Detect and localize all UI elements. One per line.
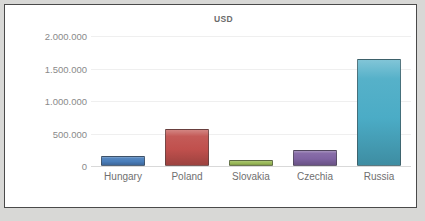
bar-hungary[interactable] — [101, 156, 145, 166]
chart-frame: USD 2.000.000 1.500.000 1.000.000 500.00… — [4, 4, 417, 208]
x-axis: Hungary Poland Slovakia Czechia Russia — [91, 171, 411, 182]
x-axis-tick-label: Slovakia — [219, 171, 283, 182]
chart-title: USD — [5, 14, 416, 24]
x-axis-tick-label: Hungary — [91, 171, 155, 182]
y-axis-tick-label: 2.000.000 — [11, 31, 87, 42]
bar-slot — [155, 36, 219, 166]
x-axis-tick-label: Russia — [347, 171, 411, 182]
bar-slovakia[interactable] — [229, 160, 273, 166]
axis-baseline — [91, 166, 411, 167]
bar-series — [91, 36, 411, 166]
bar-russia[interactable] — [357, 59, 401, 166]
y-axis-tick-label: 1.500.000 — [11, 63, 87, 74]
bar-poland[interactable] — [165, 129, 209, 166]
y-axis-tick-label: 500.000 — [11, 128, 87, 139]
bar-slot — [91, 36, 155, 166]
y-axis: 2.000.000 1.500.000 1.000.000 500.000 0 — [9, 36, 87, 166]
y-axis-tick-label: 1.000.000 — [11, 96, 87, 107]
bar-slot — [347, 36, 411, 166]
x-axis-tick-label: Czechia — [283, 171, 347, 182]
y-axis-tick-label: 0 — [11, 161, 87, 172]
bar-slot — [219, 36, 283, 166]
bar-czechia[interactable] — [293, 150, 337, 166]
x-axis-tick-label: Poland — [155, 171, 219, 182]
bar-slot — [283, 36, 347, 166]
